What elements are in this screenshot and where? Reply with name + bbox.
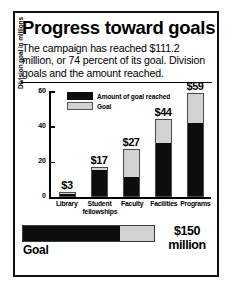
x-axis-label: Faculty — [117, 200, 149, 215]
bar-value-label: $44 — [147, 106, 179, 118]
bar-value-label: $3 — [51, 179, 83, 191]
x-axis-label: Studentfellowships — [83, 200, 117, 215]
total-progress: Goal $150 million — [22, 225, 211, 252]
bar-fill-reached — [60, 194, 75, 196]
bar — [59, 192, 76, 197]
bar-fill-reached — [188, 123, 203, 196]
infographic-panel: Progress toward goals The campaign has r… — [13, 11, 219, 277]
x-axis-label-line: Programs — [180, 200, 212, 208]
bar — [155, 119, 172, 197]
subtitle-text: The campaign has reached $111.2 million,… — [15, 38, 217, 80]
bar-column: $44 — [147, 91, 179, 197]
y-tick-label-0: 0 — [30, 192, 46, 199]
y-axis-label: Division goal in millions — [17, 5, 24, 101]
bar — [91, 167, 108, 197]
total-amount-value: $150 — [163, 225, 211, 239]
x-axis-label-line: Student — [83, 200, 117, 208]
total-amount-unit: million — [163, 239, 211, 253]
bar — [123, 149, 140, 197]
x-axis-label: Library — [51, 200, 83, 215]
x-axis-label: Facilities — [148, 200, 180, 215]
total-progress-fill — [23, 226, 120, 241]
x-axis-label: Programs — [180, 200, 212, 215]
y-tick-label-60: 60 — [30, 87, 46, 94]
total-amount: $150 million — [163, 225, 211, 252]
total-progress-track — [22, 225, 155, 242]
bar-group: $3$17$27$44$59 — [51, 91, 211, 197]
bar-value-label: $27 — [115, 136, 147, 148]
x-axis-label-line: fellowships — [83, 208, 117, 216]
x-axis-line — [49, 197, 211, 199]
y-tick-label-20: 20 — [30, 157, 46, 164]
page-title: Progress toward goals — [15, 13, 217, 38]
x-axis-label-line: Facilities — [148, 200, 180, 208]
bar-fill-reached — [156, 143, 171, 196]
bar-column: $59 — [179, 91, 211, 197]
total-goal-label: Goal — [23, 243, 48, 257]
bar-chart: Division goal in millions 60 40 20 0 Amo… — [19, 85, 213, 218]
x-axis-label-line: Library — [51, 200, 83, 208]
y-tick-label-40: 40 — [30, 122, 46, 129]
bar-fill-reached — [124, 177, 139, 196]
bar — [187, 93, 204, 197]
bar-column: $27 — [115, 91, 147, 197]
x-axis-label-line: Faculty — [117, 200, 149, 208]
bar-value-label: $17 — [83, 154, 115, 166]
bar-value-label: $59 — [179, 80, 211, 92]
bar-column: $3 — [51, 91, 83, 197]
x-axis-labels: LibraryStudentfellowshipsFacultyFaciliti… — [51, 200, 211, 215]
bar-column: $17 — [83, 91, 115, 197]
bar-fill-reached — [92, 170, 107, 196]
